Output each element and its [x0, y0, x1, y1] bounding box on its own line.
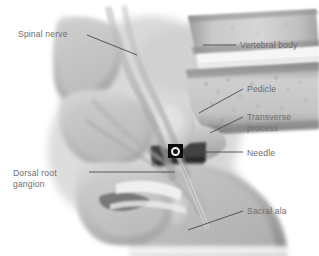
needle-marker[interactable]: [168, 144, 183, 158]
figure-container: Spinal nerve Dorsal root gangion Vertebr…: [0, 0, 319, 256]
label-needle: Needle: [247, 148, 275, 159]
label-pedicle: Pedicle: [247, 84, 276, 95]
needle-ring-icon: [171, 147, 180, 156]
label-sacral-ala: Sacral ala: [247, 206, 287, 217]
label-vertebral-body: Vertebral body: [240, 40, 298, 51]
label-dorsal-root-ganglion: Dorsal root gangion: [13, 168, 57, 189]
label-transverse-process: Transverse process: [247, 112, 291, 133]
label-spinal-nerve: Spinal nerve: [18, 29, 68, 40]
